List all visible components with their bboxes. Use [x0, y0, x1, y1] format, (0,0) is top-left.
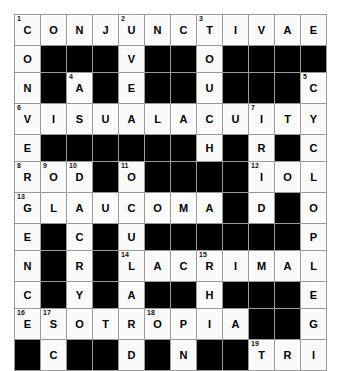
crossword-cell[interactable]: 14L — [119, 251, 145, 282]
crossword-cell[interactable]: L — [301, 251, 327, 282]
cell-letter: C — [171, 17, 196, 43]
crossword-cell[interactable]: G — [301, 309, 327, 340]
crossword-cell[interactable]: H — [197, 282, 223, 309]
crossword-cell[interactable]: I — [223, 251, 249, 282]
crossword-block-cell — [171, 73, 197, 104]
cell-letter: A — [275, 17, 300, 43]
crossword-cell[interactable]: 9O — [41, 162, 67, 193]
crossword-cell[interactable]: C — [15, 282, 41, 309]
crossword-cell[interactable]: 3T — [197, 15, 223, 46]
crossword-cell[interactable]: M — [171, 193, 197, 224]
crossword-cell[interactable]: A — [275, 251, 301, 282]
crossword-cell[interactable]: U — [197, 73, 223, 104]
crossword-cell[interactable]: C — [171, 15, 197, 46]
crossword-cell[interactable]: A — [145, 251, 171, 282]
crossword-cell[interactable]: 2U — [119, 15, 145, 46]
crossword-cell[interactable]: N — [15, 251, 41, 282]
crossword-cell[interactable]: N — [145, 15, 171, 46]
crossword-cell[interactable]: O — [15, 46, 41, 73]
crossword-cell[interactable]: M — [249, 251, 275, 282]
crossword-cell[interactable]: C — [119, 193, 145, 224]
crossword-cell[interactable]: 16E — [15, 309, 41, 340]
cell-number: 3 — [199, 15, 203, 23]
crossword-cell[interactable]: U — [119, 224, 145, 251]
crossword-cell[interactable]: L — [145, 104, 171, 135]
crossword-cell[interactable]: L — [41, 193, 67, 224]
crossword-cell[interactable]: O — [197, 46, 223, 73]
crossword-cell[interactable]: U — [223, 104, 249, 135]
crossword-cell[interactable]: 10D — [67, 162, 93, 193]
cell-letter: N — [171, 342, 196, 368]
crossword-cell[interactable]: D — [119, 340, 145, 371]
crossword-cell[interactable]: J — [93, 15, 119, 46]
crossword-cell[interactable]: 8R — [15, 162, 41, 193]
crossword-cell[interactable]: O — [301, 193, 327, 224]
crossword-grid: 1CONJ2UNC3TIVAEOVON4AEU5C6VISUALACU7ITYE… — [14, 14, 327, 371]
cell-letter: D — [249, 195, 274, 221]
cell-letter: A — [223, 311, 248, 337]
crossword-cell[interactable]: T — [93, 309, 119, 340]
crossword-cell[interactable]: I — [41, 104, 67, 135]
crossword-cell[interactable]: S — [67, 104, 93, 135]
crossword-cell[interactable]: U — [93, 193, 119, 224]
crossword-cell[interactable]: H — [197, 135, 223, 162]
crossword-cell[interactable]: 13G — [15, 193, 41, 224]
crossword-cell[interactable]: I — [223, 15, 249, 46]
crossword-cell[interactable]: 15R — [197, 251, 223, 282]
crossword-cell[interactable]: R — [67, 251, 93, 282]
crossword-cell[interactable]: V — [249, 15, 275, 46]
crossword-cell[interactable]: 17S — [41, 309, 67, 340]
crossword-cell[interactable]: C — [197, 104, 223, 135]
crossword-cell[interactable]: R — [275, 340, 301, 371]
crossword-cell[interactable]: A — [119, 282, 145, 309]
cell-letter: L — [145, 106, 170, 132]
crossword-cell[interactable]: A — [171, 104, 197, 135]
crossword-cell[interactable]: C — [67, 224, 93, 251]
crossword-cell[interactable]: O — [41, 15, 67, 46]
crossword-cell[interactable]: D — [249, 193, 275, 224]
crossword-cell[interactable]: E — [119, 73, 145, 104]
crossword-cell[interactable]: N — [171, 340, 197, 371]
crossword-cell[interactable]: A — [197, 193, 223, 224]
crossword-cell[interactable]: L — [301, 162, 327, 193]
crossword-cell[interactable]: O — [275, 162, 301, 193]
crossword-cell[interactable]: R — [119, 309, 145, 340]
crossword-cell[interactable]: 18O — [145, 309, 171, 340]
crossword-cell[interactable]: R — [249, 135, 275, 162]
crossword-cell[interactable]: 11O — [119, 162, 145, 193]
crossword-cell[interactable]: Y — [301, 104, 327, 135]
crossword-cell[interactable]: A — [275, 15, 301, 46]
crossword-cell[interactable]: C — [171, 251, 197, 282]
crossword-cell[interactable]: N — [15, 73, 41, 104]
crossword-cell[interactable]: 7I — [249, 104, 275, 135]
crossword-cell[interactable]: 12I — [249, 162, 275, 193]
crossword-cell[interactable]: E — [15, 224, 41, 251]
crossword-cell[interactable]: E — [15, 135, 41, 162]
crossword-cell[interactable]: E — [301, 282, 327, 309]
crossword-cell[interactable]: A — [223, 309, 249, 340]
crossword-cell[interactable]: 1C — [15, 15, 41, 46]
crossword-cell[interactable]: C — [41, 340, 67, 371]
cell-letter: I — [223, 17, 248, 43]
crossword-cell[interactable]: 4A — [67, 73, 93, 104]
crossword-cell[interactable]: 6V — [15, 104, 41, 135]
crossword-cell[interactable]: 5C — [301, 73, 327, 104]
crossword-cell[interactable]: E — [301, 15, 327, 46]
crossword-cell[interactable]: O — [145, 193, 171, 224]
crossword-cell[interactable]: U — [93, 104, 119, 135]
crossword-cell[interactable]: A — [119, 104, 145, 135]
crossword-cell[interactable]: P — [301, 224, 327, 251]
crossword-cell[interactable]: A — [67, 193, 93, 224]
cell-number: 7 — [251, 104, 255, 112]
crossword-cell[interactable]: 19T — [249, 340, 275, 371]
cell-letter: U — [223, 106, 248, 132]
crossword-cell[interactable]: I — [197, 309, 223, 340]
crossword-cell[interactable]: O — [67, 309, 93, 340]
crossword-cell[interactable]: I — [301, 340, 327, 371]
crossword-cell[interactable]: V — [119, 46, 145, 73]
crossword-cell[interactable]: P — [171, 309, 197, 340]
crossword-cell[interactable]: C — [301, 135, 327, 162]
crossword-cell[interactable]: T — [275, 104, 301, 135]
crossword-cell[interactable]: N — [67, 15, 93, 46]
crossword-cell[interactable]: Y — [67, 282, 93, 309]
